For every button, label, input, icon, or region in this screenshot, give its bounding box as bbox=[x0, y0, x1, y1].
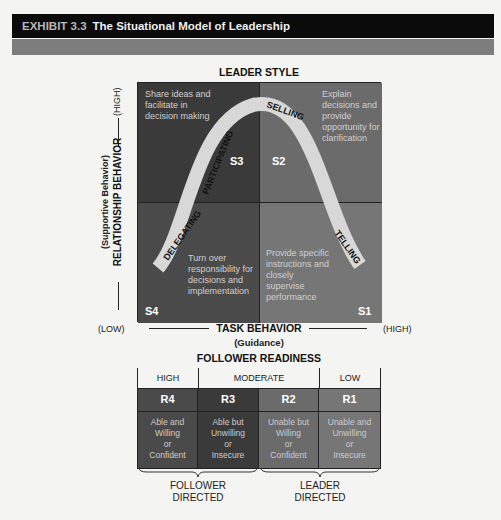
header-band bbox=[12, 39, 494, 55]
r2-code: R2 bbox=[259, 389, 319, 411]
r3-description: Able butUnwillingorInsecure bbox=[198, 412, 259, 468]
x-axis-sublabel: (Guidance) bbox=[137, 337, 381, 348]
readiness-table: R4 R3 R2 R1 Able andWillingorConfident A… bbox=[137, 388, 381, 469]
y-axis-label: RELATIONSHIP BEHAVIOR bbox=[112, 138, 123, 266]
level-low: LOW bbox=[320, 368, 380, 388]
level-moderate: MODERATE bbox=[199, 368, 320, 388]
follower-directed-label: FOLLOWERDIRECTED bbox=[137, 480, 259, 504]
x-axis-label: TASK BEHAVIOR bbox=[137, 322, 381, 334]
readiness-levels: HIGH MODERATE LOW bbox=[137, 368, 381, 388]
r3-code: R3 bbox=[198, 389, 259, 411]
y-axis-arrow-up bbox=[118, 118, 119, 146]
group-braces bbox=[137, 467, 381, 479]
r1-description: Unable andUnwillingorInsecure bbox=[319, 412, 380, 468]
r4-description: Able andWillingorConfident bbox=[138, 412, 198, 468]
x-axis-low: (LOW) bbox=[98, 324, 125, 334]
y-axis-arrow-down bbox=[118, 282, 119, 310]
r2-description: Unable butWillingorConfident bbox=[259, 412, 319, 468]
exhibit-title: The Situational Model of Leadership bbox=[93, 20, 290, 32]
r1-code: R1 bbox=[319, 389, 380, 411]
leader-style-grid: Share ideas and facilitate in decision m… bbox=[137, 82, 381, 322]
leader-style-title: LEADER STYLE bbox=[137, 66, 381, 78]
exhibit-header: EXHIBIT 3.3The Situational Model of Lead… bbox=[12, 14, 494, 38]
x-axis-high: (HIGH) bbox=[383, 324, 412, 334]
y-axis-sublabel: (Supportive Behavior) bbox=[100, 155, 110, 249]
leader-directed-label: LEADERDIRECTED bbox=[259, 480, 381, 504]
exhibit-number: EXHIBIT 3.3 bbox=[22, 20, 87, 32]
level-high: HIGH bbox=[138, 368, 199, 388]
readiness-title: FOLLOWER READINESS bbox=[137, 352, 381, 364]
y-axis: (Supportive Behavior) RELATIONSHIP BEHAV… bbox=[96, 82, 136, 322]
r4-code: R4 bbox=[138, 389, 198, 411]
leadership-curve: DELEGATING PARTICIPATING SELLING TELLING bbox=[138, 83, 382, 323]
y-axis-high: (HIGH) bbox=[112, 88, 122, 117]
